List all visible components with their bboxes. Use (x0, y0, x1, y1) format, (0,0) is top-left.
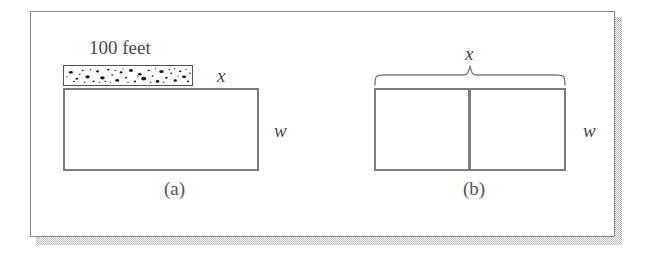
plot-rectangle-a (63, 88, 259, 171)
figure-root: 100 feet x w (a) x w (b) (0, 0, 645, 253)
wall-speckled-strip (63, 65, 193, 86)
caption-a: (a) (164, 179, 185, 198)
height-label-b: w (583, 121, 596, 140)
plot-divider-b (468, 88, 471, 171)
wall-length-label: 100 feet (89, 38, 151, 57)
width-label-b: x (465, 44, 473, 63)
height-label-a: w (274, 121, 287, 140)
figure-panel: 100 feet x w (a) x w (b) (30, 11, 615, 237)
width-brace-b (374, 62, 566, 86)
caption-b: (b) (463, 179, 485, 198)
width-label-a: x (217, 66, 225, 85)
